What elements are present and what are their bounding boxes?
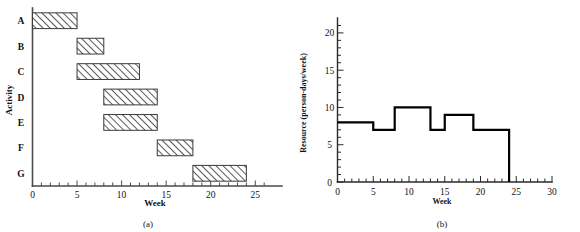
gantt-activity-label: B bbox=[18, 42, 25, 52]
resource-y-tick-label: 15 bbox=[325, 66, 335, 76]
gantt-x-tick-label: 25 bbox=[251, 190, 261, 200]
resource-chart-panel: 05101520 051015202530 Week Resource (per… bbox=[290, 0, 580, 232]
gantt-x-tick-label: 0 bbox=[30, 190, 35, 200]
resource-x-tick-label: 30 bbox=[547, 187, 557, 197]
gantt-activity-label: G bbox=[17, 169, 25, 179]
resource-y-axis-title: Resource (person-days/week) bbox=[299, 53, 308, 153]
gantt-y-axis-title: Activity bbox=[4, 84, 14, 115]
gantt-activity-label: A bbox=[18, 16, 25, 26]
gantt-chart-svg: 0510152025 ABCDEFG Week Activity (a) bbox=[0, 0, 290, 232]
resource-x-tick-label: 0 bbox=[335, 187, 340, 197]
gantt-caption: (a) bbox=[143, 219, 153, 229]
resource-x-tick-labels: 051015202530 bbox=[335, 187, 557, 197]
gantt-bar bbox=[77, 38, 104, 54]
gantt-bar bbox=[104, 89, 157, 105]
gantt-bar bbox=[33, 13, 78, 29]
gantt-chart-panel: 0510152025 ABCDEFG Week Activity (a) bbox=[0, 0, 290, 232]
gantt-activity-label: D bbox=[18, 93, 25, 103]
resource-y-tick-labels: 05101520 bbox=[325, 28, 335, 187]
resource-x-tick-label: 10 bbox=[404, 187, 414, 197]
resource-x-major-ticks bbox=[338, 176, 553, 182]
gantt-x-tick-label: 10 bbox=[117, 190, 127, 200]
resource-x-tick-label: 25 bbox=[512, 187, 522, 197]
resource-y-tick-label: 20 bbox=[325, 28, 335, 38]
gantt-x-tick-label: 20 bbox=[206, 190, 216, 200]
gantt-activity-labels: ABCDEFG bbox=[17, 16, 25, 179]
resource-x-tick-label: 20 bbox=[476, 187, 486, 197]
gantt-activity-label: F bbox=[18, 143, 24, 153]
resource-chart-svg: 05101520 051015202530 Week Resource (per… bbox=[290, 0, 580, 232]
resource-y-tick-label: 0 bbox=[327, 178, 332, 188]
gantt-bar bbox=[157, 140, 193, 156]
gantt-activity-label: E bbox=[18, 118, 24, 128]
resource-caption: (b) bbox=[437, 219, 448, 229]
gantt-bars-group bbox=[33, 13, 247, 181]
gantt-bar bbox=[104, 115, 157, 131]
resource-x-axis-title: Week bbox=[432, 197, 452, 206]
resource-y-tick-label: 10 bbox=[325, 103, 335, 113]
gantt-x-axis-title: Week bbox=[144, 198, 166, 208]
resource-y-minor-ticks bbox=[338, 25, 342, 174]
resource-step-line bbox=[338, 107, 510, 182]
figure-container: 0510152025 ABCDEFG Week Activity (a) 051… bbox=[0, 0, 580, 232]
gantt-x-tick-label: 5 bbox=[75, 190, 80, 200]
resource-x-tick-label: 5 bbox=[371, 187, 376, 197]
gantt-bar bbox=[193, 165, 246, 181]
resource-y-tick-label: 5 bbox=[327, 140, 332, 150]
gantt-activity-label: C bbox=[18, 67, 25, 77]
resource-x-tick-label: 15 bbox=[440, 187, 450, 197]
gantt-bar bbox=[77, 64, 139, 80]
